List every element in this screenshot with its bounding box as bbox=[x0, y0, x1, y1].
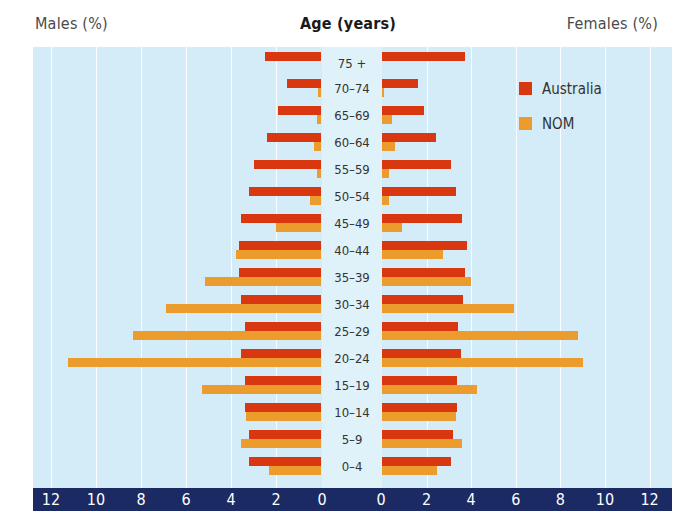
bar-male-australia bbox=[278, 106, 321, 115]
age-group-label: 30–34 bbox=[322, 297, 382, 312]
x-tick-label-female: 10 bbox=[596, 490, 614, 509]
x-tick-label-male: 6 bbox=[181, 490, 190, 509]
australia-swatch-icon bbox=[519, 82, 532, 95]
age-group-label: 45–49 bbox=[322, 216, 382, 231]
bar-female-australia bbox=[382, 133, 436, 142]
bar-female-australia bbox=[382, 376, 457, 385]
bar-female-nom bbox=[382, 304, 514, 313]
bar-male-nom bbox=[317, 169, 322, 178]
bar-female-australia bbox=[382, 241, 467, 250]
bar-male-nom bbox=[202, 385, 321, 394]
x-tick-label-male: 10 bbox=[87, 490, 105, 509]
x-tick-label-male: 8 bbox=[136, 490, 145, 509]
bar-female-australia bbox=[382, 160, 451, 169]
bar-male-australia bbox=[245, 322, 322, 331]
x-tick-label-male: 0 bbox=[317, 490, 326, 509]
age-group-label: 15–19 bbox=[322, 378, 382, 393]
age-group-label: 40–44 bbox=[322, 243, 382, 258]
bar-male-nom bbox=[276, 223, 321, 232]
age-axis-title: Age (years) bbox=[300, 14, 396, 33]
x-tick-label-female: 0 bbox=[376, 490, 385, 509]
bar-male-nom bbox=[166, 304, 321, 313]
bar-female-nom bbox=[382, 439, 462, 448]
bar-female-nom bbox=[382, 250, 443, 259]
age-group-label: 75 + bbox=[322, 56, 382, 71]
bar-female-nom bbox=[382, 196, 389, 205]
bar-male-nom bbox=[314, 142, 321, 151]
bar-male-nom bbox=[133, 331, 321, 340]
bar-male-australia bbox=[249, 187, 321, 196]
bar-female-nom bbox=[382, 142, 395, 151]
legend-label: Australia bbox=[542, 80, 602, 98]
bar-female-nom bbox=[382, 115, 392, 124]
pyramid-plot-area: 75 +70–7465–6960–6455–5950–5445–4940–443… bbox=[33, 47, 672, 488]
gridline bbox=[471, 47, 472, 488]
bar-male-australia bbox=[241, 214, 321, 223]
bar-female-nom bbox=[382, 223, 402, 232]
gridline bbox=[186, 47, 187, 488]
age-group-label: 50–54 bbox=[322, 189, 382, 204]
bar-male-australia bbox=[245, 403, 322, 412]
x-tick-label-female: 12 bbox=[640, 490, 658, 509]
gridline bbox=[141, 47, 142, 488]
bar-female-australia bbox=[382, 79, 418, 88]
legend-label: NOM bbox=[542, 115, 574, 133]
x-tick-label-female: 8 bbox=[556, 490, 565, 509]
x-tick-label-female: 2 bbox=[422, 490, 431, 509]
gridline bbox=[96, 47, 97, 488]
bar-male-australia bbox=[267, 133, 321, 142]
x-tick-label-female: 6 bbox=[511, 490, 520, 509]
bar-female-nom bbox=[382, 358, 583, 367]
bar-female-nom bbox=[382, 331, 578, 340]
bar-male-australia bbox=[241, 295, 321, 304]
bar-female-australia bbox=[382, 52, 465, 61]
x-tick-label-male: 4 bbox=[226, 490, 235, 509]
bar-female-australia bbox=[382, 106, 424, 115]
bar-female-nom bbox=[382, 412, 456, 421]
bar-male-nom bbox=[310, 196, 321, 205]
gridline bbox=[516, 47, 517, 488]
bar-female-australia bbox=[382, 322, 458, 331]
age-group-label: 60–64 bbox=[322, 135, 382, 150]
x-tick-label-male: 2 bbox=[271, 490, 280, 509]
bar-female-nom bbox=[382, 277, 471, 286]
legend-item-australia: Australia bbox=[519, 80, 602, 98]
bar-female-australia bbox=[382, 430, 453, 439]
bar-female-australia bbox=[382, 403, 457, 412]
bar-female-nom bbox=[382, 385, 477, 394]
bar-male-nom bbox=[241, 439, 321, 448]
bar-male-australia bbox=[249, 430, 321, 439]
bar-male-australia bbox=[287, 79, 321, 88]
bar-male-australia bbox=[239, 268, 321, 277]
x-tick-label-female: 4 bbox=[467, 490, 476, 509]
bar-male-nom bbox=[269, 466, 321, 475]
bar-female-nom bbox=[382, 466, 437, 475]
bar-female-australia bbox=[382, 268, 465, 277]
bar-male-nom bbox=[68, 358, 321, 367]
bar-male-nom bbox=[236, 250, 322, 259]
age-group-label: 35–39 bbox=[322, 270, 382, 285]
bar-male-australia bbox=[254, 160, 322, 169]
bar-male-nom bbox=[246, 412, 321, 421]
bar-female-nom bbox=[382, 88, 384, 97]
bar-female-nom bbox=[382, 169, 389, 178]
age-group-label: 70–74 bbox=[322, 81, 382, 96]
bar-male-australia bbox=[245, 376, 322, 385]
x-tick-label-male: 12 bbox=[42, 490, 60, 509]
bar-male-nom bbox=[205, 277, 321, 286]
bar-male-australia bbox=[249, 457, 321, 466]
bar-female-australia bbox=[382, 349, 461, 358]
gridline bbox=[605, 47, 606, 488]
age-group-label: 20–24 bbox=[322, 351, 382, 366]
bar-female-australia bbox=[382, 295, 463, 304]
age-group-label: 5–9 bbox=[322, 432, 382, 447]
gridline bbox=[51, 47, 52, 488]
females-axis-title: Females (%) bbox=[567, 14, 658, 33]
bar-male-australia bbox=[265, 52, 321, 61]
gridline bbox=[650, 47, 651, 488]
nom-swatch-icon bbox=[519, 117, 532, 130]
gridline bbox=[560, 47, 561, 488]
bar-female-australia bbox=[382, 214, 462, 223]
bar-male-australia bbox=[239, 241, 321, 250]
gridline bbox=[231, 47, 232, 488]
